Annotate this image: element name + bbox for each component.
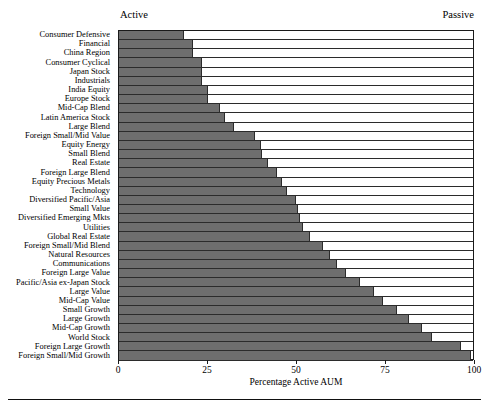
bar-row bbox=[119, 306, 473, 315]
x-axis-tick bbox=[118, 360, 119, 364]
bar-row bbox=[119, 168, 473, 177]
chart-annotations: Active Passive bbox=[118, 9, 474, 23]
y-axis-label: Diversified Emerging Mkts bbox=[18, 213, 110, 222]
y-axis-label: Small Blend bbox=[68, 149, 110, 158]
x-axis-tick bbox=[207, 360, 208, 364]
y-axis-label: Equity Energy bbox=[62, 140, 110, 149]
bar-row bbox=[119, 269, 473, 278]
bar-row bbox=[119, 278, 473, 287]
y-axis-label: Global Real Estate bbox=[47, 232, 110, 241]
x-axis-tick-label: 25 bbox=[202, 365, 212, 376]
y-axis-label: Latin America Stock bbox=[41, 113, 110, 122]
y-axis-label: Foreign Small/Mid Value bbox=[25, 131, 110, 140]
bar-row bbox=[119, 242, 473, 251]
y-axis-label: Communications bbox=[53, 259, 110, 268]
bar-row bbox=[119, 178, 473, 187]
y-axis-label: Large Growth bbox=[63, 314, 110, 323]
x-axis-tick bbox=[296, 360, 297, 364]
bar-row bbox=[119, 40, 473, 49]
bar-row bbox=[119, 123, 473, 132]
bar-row bbox=[119, 187, 473, 196]
y-axis-label: Large Blend bbox=[69, 122, 110, 131]
x-axis-tick-label: 100 bbox=[467, 365, 481, 376]
y-axis-label: Real Estate bbox=[72, 158, 110, 167]
bar-row bbox=[119, 333, 473, 342]
bottom-rule bbox=[8, 399, 481, 400]
bar-row bbox=[119, 95, 473, 104]
x-axis-title: Percentage Active AUM bbox=[118, 377, 474, 387]
bar-row bbox=[119, 232, 473, 241]
bar-row bbox=[119, 132, 473, 141]
bar-row bbox=[119, 196, 473, 205]
y-axis-tick-labels: Consumer DefensiveFinancialChina RegionC… bbox=[0, 30, 114, 360]
y-axis-label: Mid-Cap Growth bbox=[52, 323, 110, 332]
bar-row bbox=[119, 49, 473, 58]
bar-row bbox=[119, 159, 473, 168]
bar-row bbox=[119, 315, 473, 324]
bar-row bbox=[119, 68, 473, 77]
annotation-active: Active bbox=[120, 9, 148, 21]
y-axis-label: Equity Precious Metals bbox=[32, 177, 110, 186]
bar-row bbox=[119, 205, 473, 214]
y-axis-label: India Equity bbox=[68, 85, 110, 94]
y-axis-label: Natural Resources bbox=[48, 250, 110, 259]
x-axis-tick bbox=[385, 360, 386, 364]
y-axis-label: Diversified Pacific/Asia bbox=[29, 195, 110, 204]
y-axis-label: Europe Stock bbox=[65, 94, 110, 103]
y-axis-label: Mid-Cap Value bbox=[59, 296, 110, 305]
bar-row bbox=[119, 214, 473, 223]
bar-row bbox=[119, 150, 473, 159]
bar-row bbox=[119, 86, 473, 95]
y-axis-label: Small Value bbox=[69, 204, 110, 213]
y-axis-label: Foreign Small/Mid Growth bbox=[18, 351, 110, 360]
chart-figure: Active Passive Consumer DefensiveFinanci… bbox=[0, 0, 489, 407]
bar-row bbox=[119, 77, 473, 86]
bar-row bbox=[119, 342, 473, 351]
y-axis-label: Industrials bbox=[75, 76, 110, 85]
bar-series bbox=[119, 31, 473, 359]
y-axis-label: Mid-Cap Blend bbox=[58, 103, 110, 112]
y-axis-label: Utilities bbox=[83, 223, 110, 232]
bar-row bbox=[119, 58, 473, 67]
y-axis-label: Technology bbox=[71, 186, 110, 195]
y-axis-label: Small Growth bbox=[63, 305, 110, 314]
y-axis-label: Consumer Defensive bbox=[40, 30, 110, 39]
y-axis-label: Pacific/Asia ex-Japan Stock bbox=[16, 278, 110, 287]
bar-row bbox=[119, 31, 473, 40]
y-axis-label: Japan Stock bbox=[70, 67, 110, 76]
bar-row bbox=[119, 104, 473, 113]
y-axis-label: Foreign Large Growth bbox=[35, 342, 110, 351]
y-axis-label: Foreign Large Blend bbox=[40, 168, 110, 177]
x-axis-tick bbox=[474, 360, 475, 364]
bar-row bbox=[119, 260, 473, 269]
y-axis-label: Foreign Small/Mid Blend bbox=[24, 241, 110, 250]
plot-area bbox=[118, 30, 474, 360]
bar-row bbox=[119, 324, 473, 333]
bar-row bbox=[119, 251, 473, 260]
y-axis-label: Large Value bbox=[70, 287, 110, 296]
y-axis-label: Consumer Cyclical bbox=[46, 58, 110, 67]
bar-row bbox=[119, 223, 473, 232]
y-axis-label: China Region bbox=[64, 48, 110, 57]
x-axis-tick-label: 50 bbox=[291, 365, 301, 376]
y-axis-label: Foreign Large Value bbox=[41, 268, 110, 277]
x-axis-tick-label: 75 bbox=[380, 365, 390, 376]
annotation-passive: Passive bbox=[443, 9, 475, 21]
bar-row bbox=[119, 297, 473, 306]
y-axis-label: Financial bbox=[79, 39, 110, 48]
x-axis-tick-label: 0 bbox=[116, 365, 121, 376]
bar-row bbox=[119, 287, 473, 296]
bar-row bbox=[119, 113, 473, 122]
bar-row bbox=[119, 141, 473, 150]
y-axis-label: World Stock bbox=[68, 333, 110, 342]
